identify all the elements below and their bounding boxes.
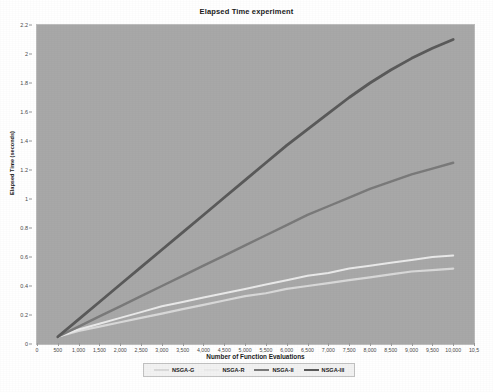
y-axis-tick: 1.8 [20, 80, 28, 86]
y-axis-tick-labels: 00.20.40.60.811.21.41.61.822.2 [0, 24, 32, 345]
x-axis-tick-mark [120, 343, 121, 346]
y-axis-tick-mark [29, 25, 32, 26]
series-line [58, 163, 453, 337]
x-axis-tick-mark [328, 343, 329, 346]
x-axis-tick-mark [58, 343, 59, 346]
y-axis-tick-mark [29, 170, 32, 171]
y-axis-tick: 0.2 [20, 312, 28, 318]
legend-item[interactable]: NSGA-G [154, 367, 194, 373]
legend-color-swatch [204, 369, 219, 371]
x-axis-tick-mark [224, 343, 225, 346]
x-axis-tick-mark [162, 343, 163, 346]
y-axis-tick-mark [29, 112, 32, 113]
y-axis-tick-mark [29, 257, 32, 258]
y-axis-tick-mark [29, 286, 32, 287]
x-axis-tick-mark [183, 343, 184, 346]
legend-color-swatch [154, 369, 169, 371]
y-axis-tick-mark [29, 344, 32, 345]
series-line [58, 40, 453, 337]
x-axis-tick-mark [432, 343, 433, 346]
x-axis-tick-mark [37, 343, 38, 346]
legend-item-label: NSGA-R [222, 367, 244, 373]
y-axis-tick-mark [29, 315, 32, 316]
x-axis-tick-mark [308, 343, 309, 346]
x-axis-tick-mark [266, 343, 267, 346]
y-axis-tick-mark [29, 199, 32, 200]
x-axis-tick-mark [79, 343, 80, 346]
x-axis-tick-mark [391, 343, 392, 346]
y-axis-tick-mark [29, 228, 32, 229]
x-axis-tick-mark [99, 343, 100, 346]
legend-item[interactable]: NSGA-R [204, 367, 244, 373]
x-axis-tick-mark [453, 343, 454, 346]
plot-area [36, 24, 475, 345]
chart-legend: NSGA-GNSGA-RNSGA-IINSGA-III [143, 363, 355, 377]
y-axis-tick: 2 [25, 51, 28, 57]
y-axis-tick: 0.4 [20, 283, 28, 289]
x-axis-tick-mark [412, 343, 413, 346]
x-axis-tick-mark [474, 343, 475, 346]
x-axis-tick-mark [203, 343, 204, 346]
x-axis-tick-mark [370, 343, 371, 346]
x-axis-tick-mark [141, 343, 142, 346]
plot-lines [37, 25, 474, 344]
legend-item[interactable]: NSGA-III [304, 367, 345, 373]
x-axis-title: Number of Function Evaluations [36, 353, 475, 360]
series-line [58, 256, 453, 337]
y-axis-tick: 1.2 [20, 167, 28, 173]
chart-container: Elapsed Time experiment Elapsed Time (se… [0, 0, 493, 392]
y-axis-tick: 0 [25, 341, 28, 347]
y-axis-tick: 2.2 [20, 22, 28, 28]
legend-item[interactable]: NSGA-II [254, 367, 293, 373]
y-axis-tick-mark [29, 54, 32, 55]
chart-title: Elapsed Time experiment [0, 7, 493, 16]
x-axis-tick-mark [245, 343, 246, 346]
y-axis-tick: 0.6 [20, 254, 28, 260]
x-axis-tick-mark [287, 343, 288, 346]
x-axis-tick-mark [349, 343, 350, 346]
legend-color-swatch [254, 369, 269, 371]
legend-item-label: NSGA-III [322, 367, 345, 373]
legend-item-label: NSGA-II [272, 367, 293, 373]
series-line [58, 269, 453, 337]
y-axis-tick: 1.6 [20, 109, 28, 115]
y-axis-tick: 1.4 [20, 138, 28, 144]
legend-color-swatch [304, 369, 319, 371]
y-axis-tick: 0.8 [20, 225, 28, 231]
y-axis-tick: 1 [25, 196, 28, 202]
y-axis-tick-mark [29, 141, 32, 142]
y-axis-tick-mark [29, 83, 32, 84]
legend-item-label: NSGA-G [172, 367, 194, 373]
